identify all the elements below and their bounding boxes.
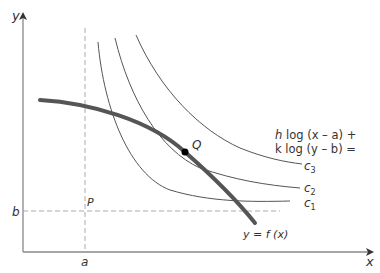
point-q <box>182 149 189 156</box>
contour-c2 <box>115 38 300 188</box>
point-p-label: P <box>87 196 94 209</box>
contour-c1 <box>98 42 290 201</box>
x-axis-label: x <box>365 254 374 269</box>
diagram: y x a b P Q y = f (x) h log (x – a) + k … <box>0 0 380 273</box>
y-axis-label: y <box>11 8 20 23</box>
tick-label-a: a <box>81 255 88 269</box>
tick-label-b: b <box>12 205 20 219</box>
objective-label-line1: h log (x – a) + <box>275 128 356 142</box>
objective-label-line2: k log (y – b) = <box>275 142 356 156</box>
point-q-label: Q <box>192 138 201 152</box>
contour-label-c2: c2 <box>304 181 316 197</box>
constraint-label: y = f (x) <box>242 228 288 241</box>
contour-label-c1: c1 <box>304 196 316 212</box>
contour-label-c3: c3 <box>304 159 316 175</box>
